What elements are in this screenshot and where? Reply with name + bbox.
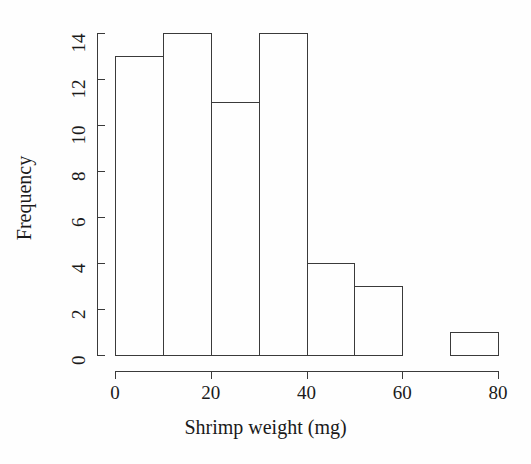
y-axis-tick-label: 4 (69, 264, 88, 304)
histogram-bar (115, 56, 164, 356)
x-axis-tick-label: 40 (277, 382, 337, 404)
x-axis-tick-label: 0 (85, 382, 145, 404)
x-axis-tick-label: 80 (468, 382, 528, 404)
x-axis-tick (498, 371, 499, 379)
y-axis-tick-label: 10 (69, 126, 88, 166)
y-axis-tick (97, 33, 105, 34)
y-axis-tick (97, 125, 105, 126)
histogram-bar (354, 286, 403, 356)
plot-area: 02468101214020406080 (0, 0, 531, 464)
y-axis-tick-label: 12 (69, 80, 88, 120)
y-axis-tick-label: 8 (69, 172, 88, 212)
histogram-bar (163, 33, 212, 356)
histogram-figure: 02468101214020406080 Shrimp weight (mg) … (0, 0, 531, 464)
y-axis-tick (97, 263, 105, 264)
x-axis-tick (307, 371, 308, 379)
y-axis-tick (97, 79, 105, 80)
x-axis-tick-label: 20 (181, 382, 241, 404)
y-axis-tick (97, 309, 105, 310)
histogram-bar (259, 33, 308, 356)
x-axis-tick (115, 371, 116, 379)
histogram-bar (307, 263, 356, 356)
x-axis-tick (402, 371, 403, 379)
y-axis-title: Frequency (12, 88, 36, 308)
y-axis-line (97, 33, 98, 356)
x-axis-tick-label: 60 (372, 382, 432, 404)
y-axis-tick-label: 6 (69, 218, 88, 258)
y-axis-tick (97, 171, 105, 172)
y-axis-tick (97, 217, 105, 218)
y-axis-tick-label: 2 (69, 310, 88, 350)
histogram-bar (211, 102, 260, 356)
y-axis-tick (97, 355, 105, 356)
y-axis-tick-label: 14 (69, 34, 88, 74)
x-axis-title: Shrimp weight (mg) (0, 415, 531, 439)
x-axis-tick (211, 371, 212, 379)
histogram-bar (450, 332, 499, 356)
